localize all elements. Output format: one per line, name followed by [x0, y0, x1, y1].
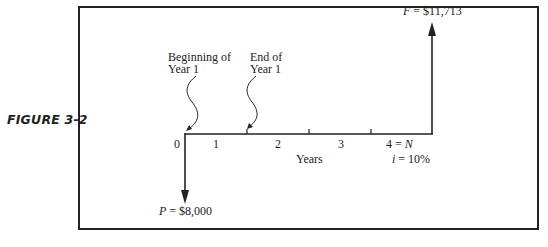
squiggle-pointer-beginning: [187, 76, 198, 128]
future-value-label: F = $11,713: [403, 5, 462, 18]
tick-label-2: 2: [275, 138, 281, 151]
squiggle-pointer-end: [247, 76, 257, 126]
arrowhead-down-icon: [181, 190, 189, 204]
n-var: N: [405, 137, 413, 151]
tick-label-0: 0: [174, 138, 180, 151]
tick-label-3: 3: [338, 138, 344, 151]
axis-label-years: Years: [296, 153, 323, 166]
beginning-label-line2: Year 1: [168, 63, 199, 76]
interest-rate-label: i = 10%: [392, 153, 430, 166]
tick-label-1: 1: [213, 138, 219, 151]
end-label-line2: Year 1: [250, 63, 281, 76]
present-value: = $8,000: [166, 204, 212, 218]
rate-value: = 10%: [395, 152, 430, 166]
present-value-label: P = $8,000: [159, 205, 212, 218]
cash-flow-diagram: [0, 0, 548, 247]
tick-label-4-number: 4 =: [386, 137, 405, 151]
arrowhead-up-icon: [428, 22, 436, 36]
future-value: = $11,713: [410, 4, 461, 18]
pointer-arrowhead-icon: [186, 125, 192, 131]
tick-label-4: 4 = N: [386, 138, 413, 151]
